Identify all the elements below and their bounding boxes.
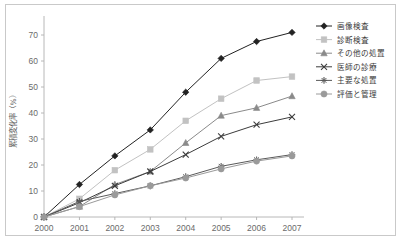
data-point-x [183, 152, 189, 158]
x-tick-label: 2003 [141, 223, 160, 233]
data-point-square [254, 78, 260, 84]
y-tick-label: 20 [29, 160, 39, 170]
data-point-triangle [183, 140, 189, 146]
data-point-circle [253, 158, 259, 164]
data-point-square [147, 147, 153, 153]
legend-label: その他の処置 [337, 48, 385, 58]
x-tick-label: 2001 [70, 223, 89, 233]
series-line [44, 117, 292, 217]
chart-figure: 010203040506070 200020012002200320042005… [0, 0, 401, 252]
x-axis-ticks: 20002001200220032004200520062007 [35, 217, 302, 233]
data-point-circle [41, 214, 47, 220]
data-point-circle [183, 175, 189, 181]
legend-label: 医師の診療 [337, 62, 377, 72]
data-point-square [289, 74, 295, 80]
data-point-square [218, 96, 224, 102]
series-line [44, 32, 292, 217]
legend-item-5[interactable]: 評価と管理 [316, 89, 377, 99]
legend-item-2[interactable]: その他の処置 [316, 48, 385, 58]
legend-label: 評価と管理 [337, 89, 377, 99]
legend-item-1[interactable]: 診断検査 [316, 35, 369, 45]
data-point-circle [218, 166, 224, 172]
y-tick-label: 10 [29, 186, 39, 196]
line-chart: 010203040506070 200020012002200320042005… [0, 0, 401, 252]
chart-legend: 画像検査診断検査その他の処置医師の診療主要な処置評価と管理 [316, 21, 385, 99]
y-tick-label: 30 [29, 134, 39, 144]
data-point-star [321, 77, 327, 84]
data-point-circle [289, 153, 295, 159]
x-tick-label: 2000 [35, 223, 54, 233]
y-axis-label: 累積変化率（%） [8, 91, 18, 147]
y-tick-label: 40 [29, 108, 39, 118]
data-point-circle [112, 192, 118, 198]
y-tick-label: 60 [29, 56, 39, 66]
y-tick-label: 0 [33, 212, 38, 222]
y-tick-label: 70 [29, 30, 39, 40]
legend-item-0[interactable]: 画像検査 [316, 21, 369, 31]
x-tick-label: 2006 [247, 223, 266, 233]
x-tick-label: 2007 [283, 223, 302, 233]
data-point-diamond [321, 23, 327, 29]
data-point-square [112, 167, 118, 173]
y-tick-label: 50 [29, 82, 39, 92]
series-container [41, 29, 295, 220]
data-point-circle [76, 204, 82, 210]
y-axis-ticks: 010203040506070 [29, 30, 44, 222]
data-point-diamond [289, 29, 295, 35]
legend-label: 主要な処置 [337, 75, 377, 85]
data-point-square [321, 37, 327, 43]
data-point-circle [321, 91, 327, 97]
legend-item-4[interactable]: 主要な処置 [316, 75, 377, 85]
legend-label: 診断検査 [337, 35, 369, 45]
legend-item-3[interactable]: 医師の診療 [316, 62, 377, 72]
data-point-circle [147, 183, 153, 189]
x-tick-label: 2002 [105, 223, 124, 233]
data-point-triangle [289, 93, 295, 99]
x-tick-label: 2005 [212, 223, 231, 233]
x-tick-label: 2004 [176, 223, 195, 233]
y-axis-label-text: 累積変化率（%） [8, 91, 18, 147]
data-point-x [218, 133, 224, 139]
data-point-diamond [253, 38, 259, 44]
data-point-square [183, 118, 189, 124]
series-square [41, 74, 295, 220]
legend-label: 画像検査 [337, 21, 369, 31]
